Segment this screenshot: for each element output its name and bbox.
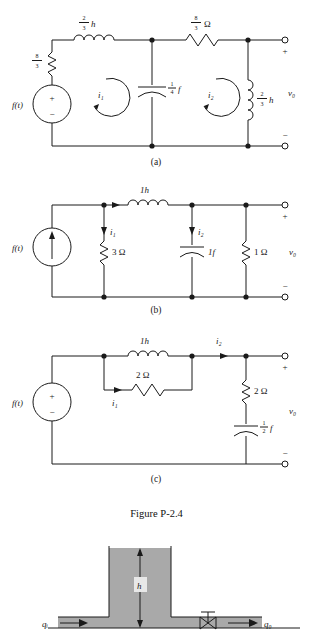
terminal-bottom-a	[282, 143, 288, 149]
terminal-minus-a: −	[282, 130, 287, 140]
current-label-1-c: i₁	[112, 398, 118, 408]
capacitor-denominator-c: 2	[263, 428, 266, 434]
mesh-arrow-1-a	[94, 104, 99, 110]
source-minus-c: −	[49, 407, 54, 417]
terminal-plus-c: +	[282, 362, 287, 372]
source-plus-a: +	[49, 93, 54, 103]
source-label-c: f(t)	[12, 398, 23, 408]
current-source-arrow-head-b	[49, 231, 55, 239]
fluid-fill	[58, 548, 262, 628]
inductor-right-unit-a: h	[269, 95, 274, 105]
terminal-minus-b: −	[282, 281, 287, 291]
terminal-plus-b: +	[282, 211, 287, 221]
source-minus-a: −	[49, 109, 54, 119]
resistor-parallel-label-c: 2 Ω	[136, 370, 150, 380]
terminal-plus-a: +	[282, 46, 287, 56]
resistor-top-zigzag-a	[186, 34, 218, 46]
terminal-minus-c: −	[282, 448, 287, 458]
inductor-right-a	[248, 80, 253, 120]
inflow-label: qᵢ	[42, 619, 49, 629]
resistor-3ohm-label-b: 3 Ω	[112, 247, 126, 257]
circuit-diagram-a: 8 3 f(t) + − 2 3 h 1 4 f 8 3 Ω 2 3 h + −…	[0, 0, 313, 170]
source-plus-c: +	[49, 391, 54, 401]
circuit-diagram-b: f(t) 3 Ω i₁ 1h 1f i₂ 1 Ω + − v₀ (b)	[0, 175, 313, 315]
inductor-right-numerator-a: 2	[261, 91, 264, 97]
resistor-series-zigzag-c	[242, 380, 250, 404]
mesh-arrow-2-a	[204, 104, 209, 110]
subfigure-label-a: (a)	[151, 157, 162, 168]
subfigure-label-b: (b)	[150, 305, 161, 316]
tank-diagram: h qᵢ q₀	[0, 532, 313, 642]
inductor-top-denominator-a: 3	[83, 25, 86, 31]
resistor-left-numerator: 8	[36, 53, 39, 59]
height-label: h	[137, 581, 142, 591]
capacitor-unit-c: f	[270, 423, 274, 433]
subfigure-label-c: (c)	[151, 474, 162, 485]
source-label-a: f(t)	[12, 100, 23, 110]
capacitor-numerator-a: 1	[171, 81, 174, 87]
source-label-b: f(t)	[12, 243, 23, 253]
terminal-top-c	[282, 353, 288, 359]
resistor-top-numerator-a: 8	[195, 15, 198, 21]
output-label-c: v₀	[289, 406, 296, 416]
terminal-bottom-c	[282, 461, 288, 467]
capacitor-numerator-c: 1	[263, 420, 266, 426]
resistor-1ohm-label-b: 1 Ω	[254, 247, 268, 257]
outflow-label: q₀	[264, 619, 272, 629]
terminal-top-a	[282, 37, 288, 43]
resistor-1ohm-zigzag-b	[242, 241, 250, 265]
terminal-bottom-b	[282, 294, 288, 300]
current-label-2-c: i₂	[216, 336, 222, 346]
current-arrow-2-c	[220, 353, 228, 359]
current-arrow-1-b	[101, 227, 107, 235]
current-arrow-2-b	[189, 227, 195, 235]
output-label-a: v₀	[288, 88, 295, 98]
mesh-label-1-a: i₁	[98, 90, 104, 100]
inductor-top-numerator-a: 2	[83, 15, 86, 21]
resistor-parallel-zigzag-c	[132, 384, 164, 396]
mesh-label-2-a: i₂	[208, 90, 214, 100]
capacitor-plate-bottom-c	[234, 432, 258, 437]
circuit-diagram-c: f(t) + − 1h 2 Ω i₁ i₂ 2 Ω 1 2 f + − v₀ (…	[0, 318, 313, 488]
inductor-right-denominator-a: 3	[261, 101, 264, 107]
capacitor-unit-a: f	[178, 84, 182, 94]
resistor-left-denominator: 3	[36, 63, 39, 69]
capacitor-label-b: 1f	[208, 247, 217, 257]
current-label-1-b: i₁	[110, 227, 116, 237]
capacitor-denominator-a: 4	[171, 89, 174, 95]
terminal-top-b	[282, 202, 288, 208]
inductor-c	[128, 351, 168, 356]
resistor-top-unit-a: Ω	[204, 19, 211, 29]
current-arrow-1-c	[114, 387, 122, 393]
capacitor-plate-bottom-a	[138, 92, 166, 97]
current-label-2-b: i₂	[198, 227, 204, 237]
inductor-label-b: 1h	[140, 185, 150, 195]
resistor-left-zigzag	[48, 52, 56, 76]
inductor-label-c: 1h	[140, 336, 150, 346]
inductor-top-b	[128, 200, 168, 205]
inductor-top-unit-a: h	[91, 19, 96, 29]
resistor-3ohm-zigzag-b	[100, 241, 108, 265]
resistor-top-denominator-a: 3	[195, 25, 198, 31]
resistor-series-label-c: 2 Ω	[254, 386, 268, 396]
output-label-b: v₀	[289, 247, 296, 257]
capacitor-plate-bottom-b	[180, 253, 204, 258]
figure-caption: Figure P-2.4	[0, 508, 313, 519]
inductor-top-a	[74, 35, 114, 40]
